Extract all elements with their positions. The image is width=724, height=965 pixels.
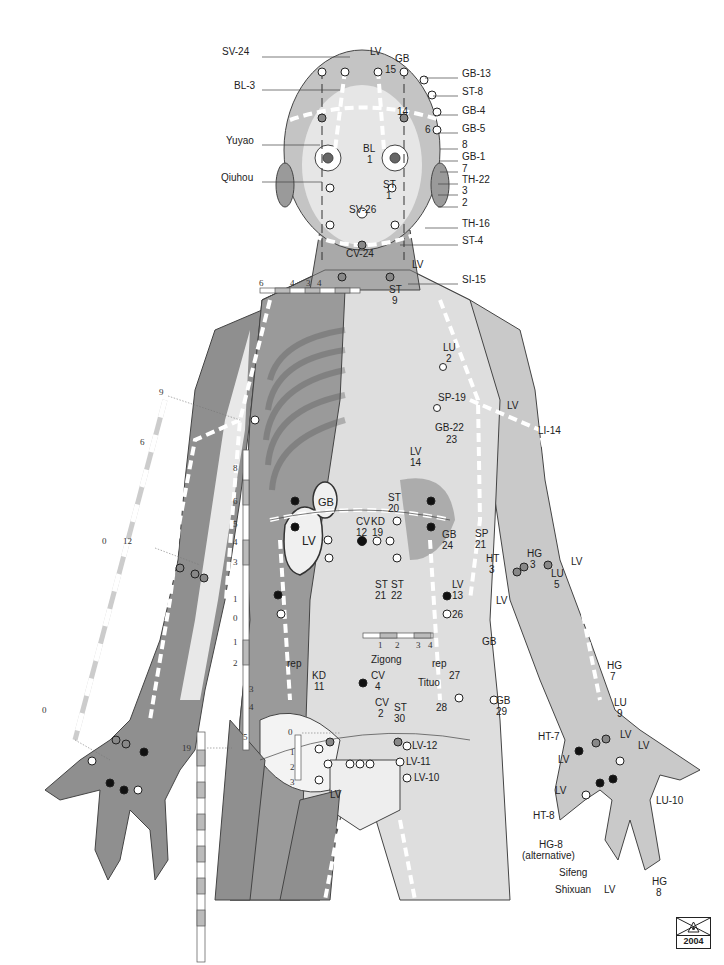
label-lu10: LU-10 — [656, 795, 683, 806]
label-hg8-alt: HG-8 — [539, 839, 563, 850]
label-lu5-num: 5 — [554, 579, 560, 590]
label-gb1: GB-1 — [462, 151, 485, 162]
label-rep-right: rep — [432, 658, 446, 669]
label-lv-hand: LV — [555, 785, 567, 796]
copyright-stamp: 2004 — [676, 917, 711, 949]
label-sp21: SP — [475, 528, 488, 539]
label-lu9-num: 9 — [617, 708, 623, 719]
label-gb8: 8 — [462, 139, 468, 150]
label-hg8-alt-note: (alternative) — [522, 850, 575, 861]
label-gb6-num: 6 — [425, 124, 431, 135]
torso-ruler-tick: 8 — [233, 463, 238, 473]
abdomen-ruler-tick: 1 — [378, 640, 383, 650]
label-kd11-num: 11 — [314, 681, 324, 692]
label-ht7: HT-7 — [538, 731, 560, 742]
abdomen-ruler-tick: 4 — [428, 640, 433, 650]
pubic-ruler-tick: 0 — [288, 727, 293, 737]
label-st-neck: ST — [389, 284, 402, 295]
stamp-emblem-icon — [677, 918, 710, 936]
label-gb-head: GB — [395, 53, 409, 64]
label-gb23-num: 23 — [446, 434, 457, 445]
acupuncture-chart: SV-24 BL-3 Yuyao Qiuhou LV GB 15 14 6 BL… — [0, 0, 724, 965]
label-sp19: SP-19 — [438, 392, 466, 403]
label-lv11: LV-11 — [406, 756, 431, 767]
label-gb29-num: 29 — [496, 706, 507, 717]
label-tituo: Tituo — [418, 677, 440, 688]
label-lu5: LU — [551, 568, 564, 579]
label-ht8: HT-8 — [533, 810, 555, 821]
label-st22-num: 22 — [391, 590, 402, 601]
label-lv-wrist2: LV — [638, 740, 650, 751]
label-gb15-num: 15 — [385, 64, 396, 75]
label-gb-organ: GB — [318, 497, 334, 508]
label-yuyao: Yuyao — [226, 135, 254, 146]
label-lv-organ: LV — [302, 536, 316, 547]
label-li14: LI-14 — [538, 425, 561, 436]
label-gb2: 2 — [462, 197, 468, 208]
label-cv24: CV-24 — [346, 248, 374, 259]
label-lv12: LV-12 — [412, 740, 437, 751]
label-lv-groin: LV — [330, 789, 342, 800]
label-hg8: HG — [652, 876, 667, 887]
label-th22: TH-22 — [462, 174, 490, 185]
label-gb26-num: 26 — [452, 609, 463, 620]
pubic-ruler-tick: 1 — [290, 747, 295, 757]
label-gb13: GB-13 — [462, 68, 491, 79]
label-sp21-num: 21 — [475, 539, 486, 550]
label-lv-elbow2: LV — [496, 595, 508, 606]
forearm-ruler-tick: 0 — [42, 705, 47, 715]
label-gb-hip: GB — [482, 636, 496, 647]
label-lv-finger: LV — [604, 884, 616, 895]
label-ht3: HT — [486, 553, 499, 564]
label-st21: ST — [375, 579, 388, 590]
label-st1-num: 1 — [386, 190, 392, 201]
abdomen-ruler-tick: 3 — [416, 640, 421, 650]
label-th16: TH-16 — [462, 218, 490, 229]
label-lv-head: LV — [370, 46, 382, 57]
pubic-ruler-tick: 3 — [290, 777, 295, 787]
torso-ruler-tick: 4 — [249, 702, 254, 712]
torso-ruler-tick: 2 — [233, 658, 238, 668]
label-gb4: GB-4 — [462, 105, 485, 116]
neck-ruler-tick: 4 — [317, 278, 322, 288]
torso-ruler-tick: 3 — [233, 557, 238, 567]
label-lu-chest: LU — [443, 342, 456, 353]
label-ht3-num: 3 — [489, 564, 495, 575]
label-gb28-num: 28 — [436, 702, 447, 713]
torso-ruler-tick: 4 — [233, 537, 238, 547]
torso-ruler-tick: 3 — [249, 684, 254, 694]
label-rep-left: rep — [287, 658, 301, 669]
label-lv-wrist1: LV — [620, 729, 632, 740]
torso-ruler-tick: 5 — [243, 732, 248, 742]
label-st30-num: 30 — [394, 713, 405, 724]
body-illustration — [0, 0, 724, 965]
label-shixuan: Shixuan — [555, 884, 591, 895]
label-zigong: Zigong — [371, 654, 402, 665]
neck-ruler-tick: 6 — [259, 278, 264, 288]
label-st21-num: 21 — [375, 590, 386, 601]
label-hg3-num: 3 — [530, 559, 536, 570]
label-kd19: KD — [371, 516, 385, 527]
label-si15: SI-15 — [462, 274, 486, 285]
thigh-ruler-tick: 19 — [182, 743, 191, 753]
label-sv24: SV-24 — [222, 46, 249, 57]
label-bl1-num: 1 — [367, 154, 373, 165]
label-gb5: GB-5 — [462, 123, 485, 134]
label-cv4: CV — [371, 670, 385, 681]
label-st22: ST — [391, 579, 404, 590]
label-st20-num: 20 — [388, 503, 399, 514]
label-st30: ST — [394, 702, 407, 713]
label-gb14-num: 14 — [397, 106, 408, 117]
label-cv2-num: 2 — [378, 708, 384, 719]
label-qiuhou: Qiuhou — [221, 172, 253, 183]
torso-ruler-tick: 0 — [233, 613, 238, 623]
label-sv26: SV-26 — [349, 204, 376, 215]
label-lv10: LV-10 — [414, 772, 439, 783]
label-lv-shoulder: LV — [507, 400, 519, 411]
label-gb24: GB — [442, 529, 456, 540]
label-cv12-num: 12 — [356, 527, 367, 538]
label-gb3: 3 — [462, 185, 468, 196]
torso-ruler-tick: 5 — [233, 519, 238, 529]
label-bl-face: BL — [363, 143, 375, 154]
label-st9-num: 9 — [392, 295, 398, 306]
